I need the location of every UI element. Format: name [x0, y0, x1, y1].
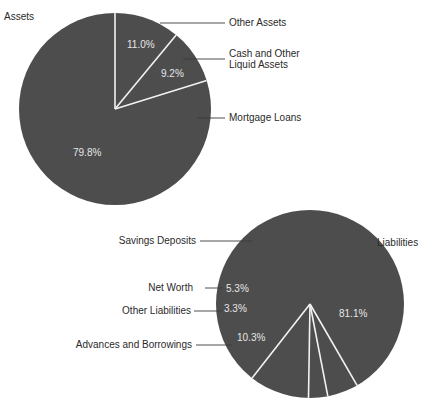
label-advances-borrowings: Advances and Borrowings	[76, 339, 192, 350]
pie-charts: Assets Liabilities Other Assets Cash and…	[0, 0, 431, 415]
pct-other-assets: 11.0%	[127, 39, 155, 50]
label-other-assets: Other Assets	[229, 17, 286, 28]
label-mortgage-loans: Mortgage Loans	[229, 112, 301, 123]
label-net-worth: Net Worth	[148, 282, 193, 293]
assets-pie-chart	[19, 13, 211, 205]
pct-cash: 9.2%	[161, 68, 184, 79]
pct-mortgage: 79.8%	[73, 147, 101, 158]
label-other-liabilities: Other Liabilities	[122, 305, 191, 316]
label-cash-line1: Cash and Other	[229, 48, 300, 59]
liabilities-title: Liabilities	[377, 237, 418, 248]
pct-savings-deposits: 81.1%	[339, 308, 367, 319]
label-savings-deposits: Savings Deposits	[119, 235, 196, 246]
pct-other-liabilities: 3.3%	[224, 303, 247, 314]
pct-net-worth: 5.3%	[226, 283, 249, 294]
label-cash-line2: Liquid Assets	[229, 59, 288, 70]
assets-title: Assets	[4, 11, 34, 22]
pct-advances: 10.3%	[237, 332, 265, 343]
